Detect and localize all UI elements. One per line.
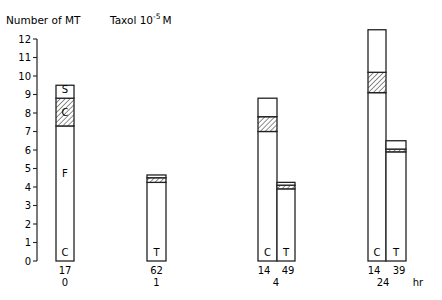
y-tick-label: 6 — [25, 145, 31, 156]
bar-24hr-T — [386, 141, 406, 261]
subtitle-exponent: -5 — [153, 12, 161, 21]
y-tick-label: 12 — [18, 34, 31, 45]
time-label: 24 — [377, 277, 390, 288]
sample-count: 39 — [393, 265, 406, 276]
bar-segment-open — [258, 132, 277, 262]
bar-segment-open — [368, 93, 386, 261]
y-tick-label: 1 — [25, 237, 31, 248]
y-axis: 0123456789101112 — [18, 34, 37, 267]
y-tick-label: 0 — [25, 256, 31, 267]
sample-count: 49 — [282, 265, 295, 276]
bar-segment-labels: SCFCTCTCT — [62, 84, 400, 258]
segment-label: C — [62, 107, 69, 118]
bar-segment-hatched — [147, 178, 166, 183]
y-tick-label: 7 — [25, 126, 31, 137]
segment-label: T — [392, 247, 400, 258]
y-tick-label: 5 — [25, 163, 31, 174]
bar-segment-open — [277, 182, 295, 185]
bar-segment-open — [368, 30, 386, 73]
bar-segment-open — [56, 126, 74, 261]
bar-4hr-C — [258, 98, 277, 261]
time-axis-labels: 01424hr — [62, 277, 424, 288]
segment-label: S — [62, 84, 68, 95]
sample-count: 14 — [368, 265, 381, 276]
y-tick-label: 11 — [18, 52, 31, 63]
sample-count: 17 — [59, 265, 72, 276]
bars — [56, 30, 406, 261]
x-axis-unit: hr — [413, 277, 424, 288]
y-axis-title: Number of MT — [6, 14, 81, 26]
segment-label: C — [264, 247, 271, 258]
bar-segment-open — [386, 141, 406, 149]
chart-subtitle: Taxol 10-5M — [109, 12, 172, 26]
segment-label: C — [374, 247, 381, 258]
time-label: 0 — [62, 277, 68, 288]
bar-segment-open — [147, 175, 166, 178]
segment-label: F — [62, 168, 68, 179]
subtitle-text: Taxol 10 — [109, 14, 153, 26]
time-label: 4 — [273, 277, 279, 288]
bar-24hr-C — [368, 30, 386, 261]
segment-label: T — [282, 247, 290, 258]
y-tick-label: 9 — [25, 89, 31, 100]
bar-segment-open — [386, 152, 406, 261]
y-tick-label: 10 — [18, 71, 31, 82]
y-tick-label: 3 — [25, 200, 31, 211]
bar-segment-open — [258, 98, 277, 117]
time-label: 1 — [153, 277, 159, 288]
sample-count: 62 — [150, 265, 163, 276]
y-tick-label: 4 — [25, 182, 31, 193]
y-tick-label: 8 — [25, 108, 31, 119]
stacked-bar-chart: Number of MT Taxol 10-5M 012345678910111… — [0, 0, 442, 300]
y-tick-label: 2 — [25, 219, 31, 230]
segment-label: T — [152, 247, 160, 258]
bar-segment-hatched — [258, 117, 277, 132]
subtitle-unit: M — [163, 14, 172, 26]
sample-count-labels: 176214491439 — [59, 265, 406, 276]
bar-segment-hatched — [368, 72, 386, 92]
sample-count: 14 — [258, 265, 271, 276]
segment-label: C — [62, 247, 69, 258]
